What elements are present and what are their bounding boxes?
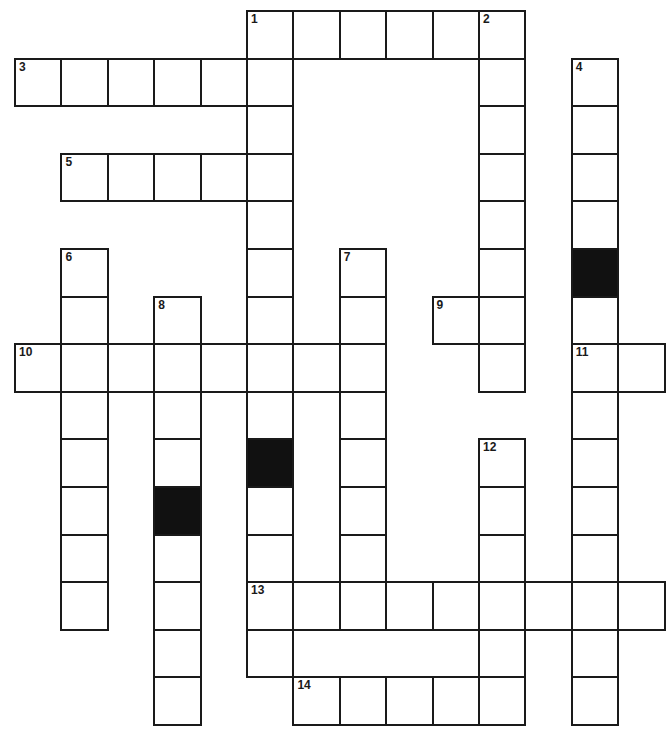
letter-input[interactable]: [248, 488, 292, 534]
grid-cell[interactable]: [432, 676, 480, 726]
grid-cell[interactable]: [246, 58, 294, 108]
grid-cell[interactable]: [60, 58, 108, 108]
letter-input[interactable]: [248, 107, 292, 153]
letter-input[interactable]: [341, 393, 385, 439]
grid-cell[interactable]: [153, 534, 201, 584]
letter-input[interactable]: [573, 631, 617, 677]
letter-input[interactable]: [155, 155, 199, 201]
grid-cell[interactable]: [571, 153, 619, 203]
grid-cell[interactable]: [246, 629, 294, 679]
grid-cell[interactable]: [153, 58, 201, 108]
grid-cell[interactable]: [60, 391, 108, 441]
letter-input[interactable]: [62, 440, 106, 486]
grid-cell[interactable]: [246, 296, 294, 346]
grid-cell[interactable]: [246, 153, 294, 203]
letter-input[interactable]: [294, 12, 338, 58]
grid-cell[interactable]: [478, 343, 526, 393]
letter-input[interactable]: [434, 583, 478, 629]
grid-cell[interactable]: [571, 105, 619, 155]
grid-cell[interactable]: [478, 58, 526, 108]
letter-input[interactable]: [387, 583, 431, 629]
letter-input[interactable]: [387, 12, 431, 58]
letter-input[interactable]: [341, 250, 385, 296]
letter-input[interactable]: [155, 60, 199, 106]
letter-input[interactable]: [155, 298, 199, 344]
grid-cell[interactable]: [200, 153, 248, 203]
letter-input[interactable]: [573, 488, 617, 534]
letter-input[interactable]: [341, 583, 385, 629]
grid-cell[interactable]: [385, 676, 433, 726]
grid-cell[interactable]: [153, 391, 201, 441]
letter-input[interactable]: [294, 678, 338, 724]
letter-input[interactable]: [248, 202, 292, 248]
letter-input[interactable]: [62, 583, 106, 629]
grid-cell[interactable]: [617, 581, 665, 631]
grid-cell[interactable]: 13: [246, 581, 294, 631]
grid-cell[interactable]: 14: [292, 676, 340, 726]
letter-input[interactable]: [573, 678, 617, 724]
grid-cell[interactable]: [432, 581, 480, 631]
grid-cell[interactable]: 3: [14, 58, 62, 108]
grid-cell[interactable]: [432, 10, 480, 60]
letter-input[interactable]: [62, 155, 106, 201]
grid-cell[interactable]: [153, 438, 201, 488]
letter-input[interactable]: [294, 583, 338, 629]
letter-input[interactable]: [573, 393, 617, 439]
grid-cell[interactable]: 4: [571, 58, 619, 108]
letter-input[interactable]: [480, 631, 524, 677]
letter-input[interactable]: [434, 298, 478, 344]
grid-cell[interactable]: [153, 629, 201, 679]
letter-input[interactable]: [573, 202, 617, 248]
letter-input[interactable]: [248, 12, 292, 58]
letter-input[interactable]: [619, 345, 663, 391]
letter-input[interactable]: [155, 345, 199, 391]
grid-cell[interactable]: [292, 10, 340, 60]
letter-input[interactable]: [248, 155, 292, 201]
letter-input[interactable]: [341, 440, 385, 486]
grid-cell[interactable]: [571, 486, 619, 536]
letter-input[interactable]: [341, 298, 385, 344]
grid-cell[interactable]: [153, 343, 201, 393]
grid-cell[interactable]: [571, 438, 619, 488]
grid-cell[interactable]: [292, 581, 340, 631]
grid-cell[interactable]: [246, 105, 294, 155]
letter-input[interactable]: [62, 536, 106, 582]
grid-cell[interactable]: [478, 153, 526, 203]
grid-cell[interactable]: [107, 153, 155, 203]
letter-input[interactable]: [109, 345, 153, 391]
grid-cell[interactable]: [153, 153, 201, 203]
letter-input[interactable]: [573, 107, 617, 153]
letter-input[interactable]: [248, 298, 292, 344]
grid-cell[interactable]: [385, 581, 433, 631]
grid-cell[interactable]: [60, 534, 108, 584]
grid-cell[interactable]: [478, 248, 526, 298]
letter-input[interactable]: [480, 250, 524, 296]
grid-cell[interactable]: 5: [60, 153, 108, 203]
letter-input[interactable]: [434, 12, 478, 58]
grid-cell[interactable]: [478, 200, 526, 250]
letter-input[interactable]: [434, 678, 478, 724]
letter-input[interactable]: [155, 631, 199, 677]
grid-cell[interactable]: [200, 58, 248, 108]
grid-cell[interactable]: [246, 534, 294, 584]
letter-input[interactable]: [155, 440, 199, 486]
letter-input[interactable]: [294, 345, 338, 391]
letter-input[interactable]: [16, 60, 60, 106]
grid-cell[interactable]: [339, 391, 387, 441]
letter-input[interactable]: [573, 60, 617, 106]
grid-cell[interactable]: [385, 10, 433, 60]
letter-input[interactable]: [155, 583, 199, 629]
grid-cell[interactable]: [571, 391, 619, 441]
grid-cell[interactable]: [571, 200, 619, 250]
letter-input[interactable]: [155, 393, 199, 439]
grid-cell[interactable]: 12: [478, 438, 526, 488]
letter-input[interactable]: [248, 393, 292, 439]
letter-input[interactable]: [109, 155, 153, 201]
grid-cell[interactable]: [107, 343, 155, 393]
grid-cell[interactable]: [60, 438, 108, 488]
letter-input[interactable]: [480, 440, 524, 486]
grid-cell[interactable]: [246, 391, 294, 441]
letter-input[interactable]: [16, 345, 60, 391]
letter-input[interactable]: [62, 298, 106, 344]
grid-cell[interactable]: [339, 534, 387, 584]
